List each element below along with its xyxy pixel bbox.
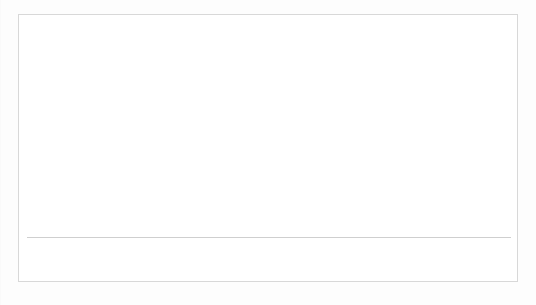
page-root <box>0 0 536 305</box>
axis-rule <box>27 237 511 238</box>
figure-frame <box>18 14 518 282</box>
x-axis <box>19 237 518 282</box>
